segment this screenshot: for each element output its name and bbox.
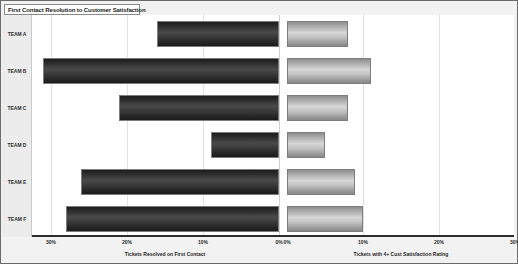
bar-row	[32, 206, 514, 232]
category-label-team-a: TEAM A	[2, 31, 32, 37]
tick-right-20: 20%	[434, 239, 444, 245]
category-label-team-b: TEAM B	[2, 68, 32, 74]
chart-frame: First Contact Resolution to Customer Sat…	[0, 0, 518, 264]
plot-area	[32, 15, 514, 237]
tick-left-0: 0%	[275, 239, 282, 245]
gridline-left-0	[279, 15, 280, 235]
category-axis: TEAM ATEAM BTEAM CTEAM DTEAM ETEAM F	[2, 15, 32, 237]
bar-left-team-d[interactable]	[211, 132, 279, 158]
bar-row	[32, 95, 514, 121]
bar-left-team-a[interactable]	[157, 21, 279, 47]
bar-right-team-f[interactable]	[287, 206, 363, 232]
category-label-team-f: TEAM F	[2, 216, 32, 222]
gridline-left-20	[127, 15, 128, 235]
bar-right-team-b[interactable]	[287, 58, 371, 84]
tick-right-30: 30%	[510, 239, 518, 245]
bar-right-team-a[interactable]	[287, 21, 348, 47]
bar-row	[32, 21, 514, 47]
bar-left-team-e[interactable]	[81, 169, 279, 195]
page-title: First Contact Resolution to Customer Sat…	[8, 7, 145, 13]
bar-row	[32, 169, 514, 195]
tick-left-10: 10%	[198, 239, 208, 245]
bar-left-team-f[interactable]	[66, 206, 279, 232]
gridline-right-10	[363, 15, 364, 235]
tick-left-30: 30%	[46, 239, 56, 245]
gridline-left-10	[203, 15, 204, 235]
axis-title-right: Tickets with 4+ Cust Satisfaction Rating	[354, 251, 449, 257]
bar-right-team-d[interactable]	[287, 132, 325, 158]
category-label-team-e: TEAM E	[2, 179, 32, 185]
chart-title-bar: First Contact Resolution to Customer Sat…	[4, 4, 140, 15]
gridline-left-30	[51, 15, 52, 235]
bar-left-team-c[interactable]	[119, 95, 279, 121]
gridline-right-20	[439, 15, 440, 235]
bar-row	[32, 132, 514, 158]
tick-right-0: 0%	[283, 239, 290, 245]
category-label-team-d: TEAM D	[2, 142, 32, 148]
tick-left-20: 20%	[122, 239, 132, 245]
tick-right-10: 10%	[358, 239, 368, 245]
bar-right-team-c[interactable]	[287, 95, 348, 121]
value-axis: 30%20%10%0%0%10%20%30%	[32, 237, 514, 249]
axis-title-left: Tickets Resolved on First Contact	[125, 251, 205, 257]
bar-left-team-b[interactable]	[43, 58, 279, 84]
category-label-team-c: TEAM C	[2, 105, 32, 111]
bar-right-team-e[interactable]	[287, 169, 355, 195]
bar-row	[32, 58, 514, 84]
